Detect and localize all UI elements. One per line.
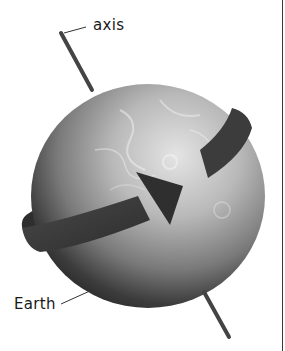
axis-bottom-segment xyxy=(204,292,229,337)
earth-rotation-diagram: axis Earth xyxy=(0,0,285,351)
earth-label: Earth xyxy=(14,295,56,313)
axis-top-segment xyxy=(61,33,92,90)
axis-leader-line xyxy=(64,27,86,33)
right-border xyxy=(282,0,283,351)
earth-leader-line xyxy=(61,290,92,304)
axis-label: axis xyxy=(93,16,124,34)
